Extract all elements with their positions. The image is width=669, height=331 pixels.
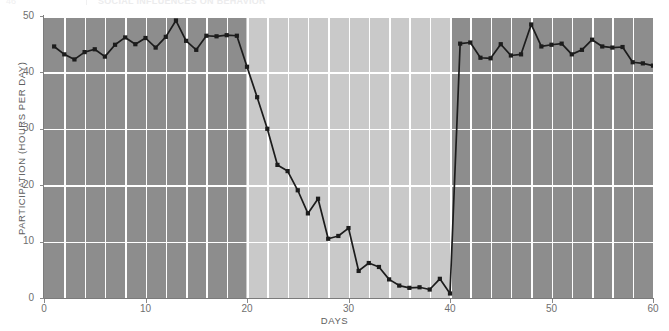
- data-point: [600, 44, 604, 48]
- y-tick-mark: [40, 242, 44, 243]
- data-point: [214, 34, 218, 38]
- data-point: [113, 43, 117, 47]
- data-point: [519, 52, 523, 56]
- data-point: [641, 61, 645, 65]
- x-tick-label: 20: [227, 303, 267, 314]
- data-point: [539, 44, 543, 48]
- x-tick-label: 30: [329, 303, 369, 314]
- data-point: [357, 269, 361, 273]
- data-point: [316, 197, 320, 201]
- x-tick-label: 0: [24, 303, 64, 314]
- data-point: [123, 35, 127, 39]
- data-point: [458, 42, 462, 46]
- x-axis-label: DAYS: [0, 315, 669, 326]
- data-point: [407, 286, 411, 290]
- data-point: [417, 285, 421, 289]
- data-point: [265, 127, 269, 131]
- y-tick-mark: [40, 129, 44, 130]
- y-tick-label: 50: [8, 10, 34, 21]
- y-axis-line: [43, 15, 44, 299]
- header-title: SOCIAL INFLUENCES ON BEHAVIOR: [98, 0, 266, 6]
- x-tick-label: 40: [430, 303, 470, 314]
- plot-area: [44, 16, 653, 298]
- data-point: [286, 169, 290, 173]
- data-point: [620, 45, 624, 49]
- data-point: [245, 65, 249, 69]
- data-point: [72, 57, 76, 61]
- data-point: [143, 36, 147, 40]
- data-point: [235, 34, 239, 38]
- data-point: [560, 42, 564, 46]
- data-point: [438, 277, 442, 281]
- x-tick-label: 50: [532, 303, 572, 314]
- data-point: [204, 34, 208, 38]
- x-tick-label: 10: [126, 303, 166, 314]
- data-point: [377, 265, 381, 269]
- data-point: [83, 50, 87, 54]
- y-tick-mark: [40, 72, 44, 73]
- y-tick-mark: [40, 16, 44, 17]
- page-number: 46: [6, 0, 16, 6]
- page-header-strip: 46 SOCIAL INFLUENCES ON BEHAVIOR: [0, 0, 669, 9]
- x-tick-label: 60: [633, 303, 669, 314]
- data-point: [590, 38, 594, 42]
- data-point: [549, 43, 553, 47]
- data-point: [225, 33, 229, 37]
- data-point: [164, 35, 168, 39]
- y-tick-label: 0: [8, 292, 34, 303]
- data-point: [428, 287, 432, 291]
- data-point: [387, 277, 391, 281]
- data-point: [296, 188, 300, 192]
- data-point: [367, 261, 371, 265]
- data-point: [489, 56, 493, 60]
- y-tick-mark: [40, 298, 44, 299]
- data-point: [154, 45, 158, 49]
- data-point: [631, 60, 635, 64]
- header-divider-rule: [86, 0, 87, 5]
- y-tick-label: 10: [8, 235, 34, 246]
- data-point: [326, 237, 330, 241]
- data-point: [570, 52, 574, 56]
- data-point: [184, 39, 188, 43]
- data-point: [336, 234, 340, 238]
- data-point: [397, 283, 401, 287]
- data-point: [610, 45, 614, 49]
- data-point: [346, 226, 350, 230]
- data-point: [529, 22, 533, 26]
- data-point: [478, 56, 482, 60]
- data-point: [651, 64, 653, 68]
- data-point: [62, 52, 66, 56]
- data-point: [499, 42, 503, 46]
- data-point: [174, 18, 178, 22]
- series-line: [54, 21, 653, 294]
- data-point: [255, 95, 259, 99]
- y-axis-label: PARTICIPATION (HOURS PER DAY): [16, 62, 27, 235]
- data-point: [133, 42, 137, 46]
- data-point: [194, 48, 198, 52]
- data-point: [448, 291, 452, 295]
- data-point: [275, 163, 279, 167]
- data-point: [93, 47, 97, 51]
- data-point: [509, 53, 513, 57]
- data-point: [468, 40, 472, 44]
- data-series-participation: [44, 16, 653, 298]
- data-point: [580, 48, 584, 52]
- y-tick-mark: [40, 185, 44, 186]
- data-point: [103, 55, 107, 59]
- data-point: [306, 211, 310, 215]
- data-point: [52, 44, 56, 48]
- chart-page: 46 SOCIAL INFLUENCES ON BEHAVIOR 0102030…: [0, 0, 669, 331]
